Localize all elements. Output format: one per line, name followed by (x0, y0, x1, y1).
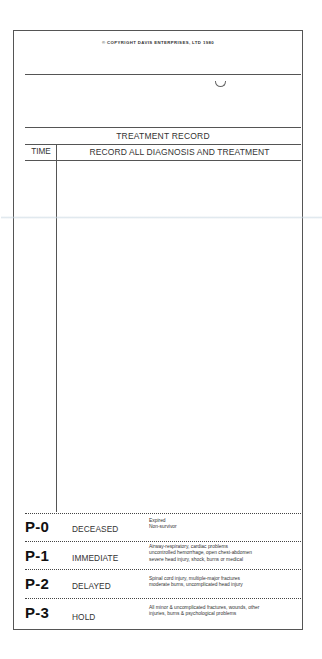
priority-code: P-0 (25, 518, 49, 535)
treatment-record-form: © COPYRIGHT DAVIS ENTERPRISES, LTD 1980 … (13, 30, 303, 630)
priority-code: P-3 (25, 604, 49, 621)
description-line: injuries, burns & psychological problems (149, 611, 304, 617)
priority-description: Spinal cord injury, multiple-major fract… (149, 576, 304, 589)
priority-row-p3: P-3 HOLD All minor & uncomplicated fract… (25, 600, 301, 628)
scan-artifact (1, 216, 322, 219)
priority-divider (25, 569, 301, 570)
punch-hole-mark-icon (215, 81, 226, 87)
priority-code: P-1 (25, 547, 49, 564)
section-title: TREATMENT RECORD (25, 128, 301, 144)
priority-row-p2: P-2 DELAYED Spinal cord injury, multiple… (25, 571, 301, 597)
priority-divider (25, 513, 301, 514)
priority-name: DECEASED (72, 524, 118, 534)
priority-row-p0: P-0 DECEASED Expired Non-survivor (25, 515, 301, 541)
priority-description: Expired Non-survivor (149, 518, 304, 531)
header-rule (25, 74, 301, 75)
priority-description: All minor & uncomplicated fractures, wou… (149, 605, 304, 618)
priority-divider (25, 598, 301, 599)
priority-name: DELAYED (72, 581, 111, 591)
priority-name: IMMEDIATE (72, 553, 118, 563)
priority-divider (25, 541, 301, 542)
description-line: moderate burns, uncomplicated head injur… (149, 582, 304, 588)
time-entry-area[interactable] (25, 161, 55, 511)
description-line: severe head injury, shock, burns or medi… (149, 557, 304, 563)
priority-code: P-2 (25, 575, 49, 592)
copyright-notice: © COPYRIGHT DAVIS ENTERPRISES, LTD 1980 (14, 40, 302, 45)
record-entry-area[interactable] (58, 161, 301, 511)
description-line: Non-survivor (149, 524, 304, 530)
priority-name: HOLD (72, 612, 95, 622)
column-header-time: TIME (25, 144, 57, 160)
column-divider (56, 144, 57, 512)
priority-description: Airway-respiratory, cardiac problems unc… (149, 544, 304, 563)
column-header-record: RECORD ALL DIAGNOSIS AND TREATMENT (57, 144, 302, 160)
priority-row-p1: P-1 IMMEDIATE Airway-respiratory, cardia… (25, 543, 301, 569)
